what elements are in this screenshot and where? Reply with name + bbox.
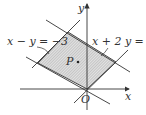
point-p [77, 61, 80, 64]
point-p-label: P [65, 55, 74, 68]
label-line-2: x + 2 y = 3 [92, 35, 146, 48]
x-axis-label: x [125, 90, 132, 103]
origin-label: O [81, 93, 90, 106]
y-axis-label: y [77, 2, 85, 15]
diagram: x − y = −3 x + 2 y = 3 P y x O [0, 0, 146, 115]
label-line-1: x − y = −3 [7, 35, 68, 48]
